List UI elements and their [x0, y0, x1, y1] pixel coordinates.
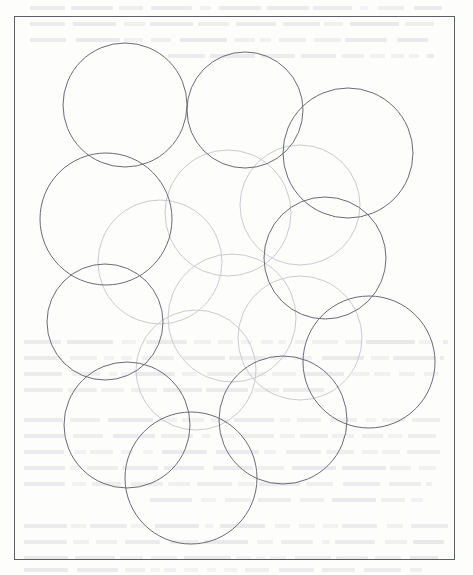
bleedthrough-word: [151, 568, 160, 572]
bleedthrough-word: [125, 568, 145, 572]
figure-border: [14, 16, 455, 560]
bleedthrough-word: [224, 568, 237, 572]
bleedthrough-word: [24, 568, 68, 572]
bleedthrough-word: [360, 6, 368, 10]
bleedthrough-word: [267, 6, 309, 10]
bleedthrough-word: [119, 6, 143, 10]
bleedthrough-word: [151, 6, 192, 10]
bleedthrough-word: [313, 6, 352, 10]
bleedthrough-word: [245, 568, 269, 572]
bleedthrough-word: [164, 568, 176, 572]
scanned-page: Arrangement of overlapping circles of ne…: [0, 0, 473, 575]
bleedthrough-word: [410, 568, 422, 572]
bleedthrough-word: [322, 568, 355, 572]
bleedthrough-word: [200, 6, 211, 10]
bleedthrough-word: [30, 6, 65, 10]
bleedthrough-word: [77, 568, 118, 572]
bleedthrough-word: [207, 568, 216, 572]
bleedthrough-word: [364, 568, 401, 572]
bleedthrough-word: [184, 568, 198, 572]
bleedthrough-word: [219, 6, 261, 10]
bleedthrough-word: [71, 6, 113, 10]
bleedthrough-word: [279, 568, 314, 572]
bleedthrough-word: [378, 6, 404, 10]
bleedthrough-word: [414, 6, 442, 10]
